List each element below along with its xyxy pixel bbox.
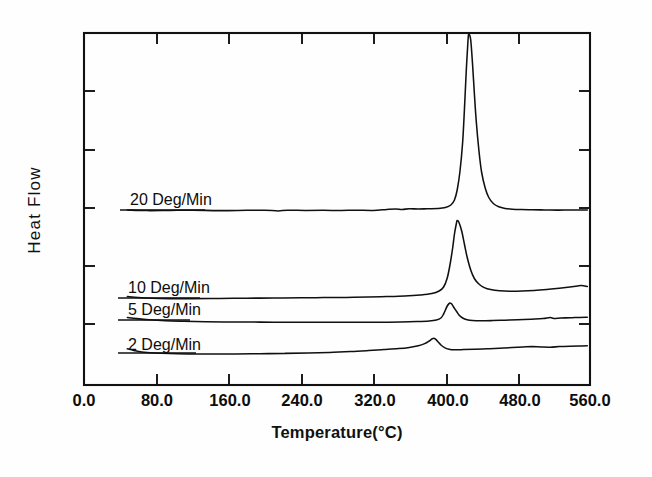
dsc-thermogram-figure: 20 Deg/Min 10 Deg/Min 5 Deg/Min 2 Deg/Mi… bbox=[0, 0, 652, 477]
series-annotations: 20 Deg/Min 10 Deg/Min 5 Deg/Min 2 Deg/Mi… bbox=[118, 191, 212, 353]
series-label-20-deg-min: 20 Deg/Min bbox=[130, 191, 212, 208]
chart-canvas: 20 Deg/Min 10 Deg/Min 5 Deg/Min 2 Deg/Mi… bbox=[0, 0, 652, 477]
series-label-2-deg-min: 2 Deg/Min bbox=[128, 336, 201, 353]
x-tick-label-5: 400.0 bbox=[427, 391, 468, 409]
x-tick-label-6: 480.0 bbox=[499, 391, 540, 409]
x-axis-title: Temperature(°C) bbox=[271, 423, 402, 441]
x-tick-label-3: 240.0 bbox=[281, 391, 322, 409]
x-tick-label-2: 160.0 bbox=[209, 391, 250, 409]
series-label-5-deg-min: 5 Deg/Min bbox=[128, 301, 201, 318]
curve-20-deg-min bbox=[127, 34, 587, 211]
x-tick-labels: 0.0 80.0 160.0 240.0 320.0 400.0 480.0 5… bbox=[73, 391, 611, 409]
x-axis-ticks bbox=[157, 33, 519, 385]
x-tick-label-4: 320.0 bbox=[354, 391, 395, 409]
x-tick-label-0: 0.0 bbox=[73, 391, 96, 409]
x-tick-label-7: 560.0 bbox=[569, 391, 610, 409]
y-axis-title: Heat Flow bbox=[25, 166, 44, 253]
x-tick-label-1: 80.0 bbox=[141, 391, 173, 409]
series-label-10-deg-min: 10 Deg/Min bbox=[128, 279, 210, 296]
